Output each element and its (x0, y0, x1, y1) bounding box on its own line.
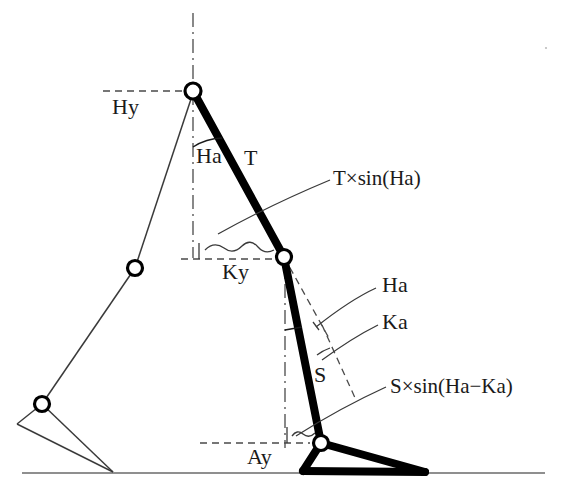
hip-angle-leader-line (316, 288, 376, 327)
hip-angle-reference-label: Ha (382, 274, 408, 296)
rear-shank-segment (42, 268, 135, 404)
foot-sole-segment (303, 471, 425, 472)
knee-angle-label: Ka (382, 311, 408, 333)
shank-label: S (314, 364, 326, 386)
knee-angle-leader-line (322, 325, 378, 360)
rear-foot-sole-segment (17, 424, 113, 472)
diagram-canvas (0, 0, 563, 488)
thigh-segment (193, 91, 284, 257)
thigh-projection-leader-line (218, 180, 330, 234)
rear-foot-toe-segment (42, 404, 113, 472)
shank-extension-dashed-line (322, 325, 356, 400)
ankle-joint-icon (314, 436, 329, 451)
thigh-projection-label: T×sin(Ha) (333, 168, 421, 189)
hip-angle-label: Ha (196, 145, 222, 167)
rear-ankle-joint-icon (35, 397, 50, 412)
shank-segment (284, 257, 321, 443)
knee-angle-arc (317, 348, 330, 355)
rear-thigh-segment (135, 93, 193, 268)
hip-joint-icon (185, 83, 201, 99)
kinematics-diagram: Hy Ha T Ky Ha Ka S Ay T×sin(Ha) S×sin(Ha… (0, 0, 563, 488)
knee-height-squiggle (205, 242, 274, 252)
knee-height-label: Ky (222, 261, 249, 283)
rear-knee-joint-icon (128, 261, 143, 276)
shank-projection-label: S×sin(Ha−Ka) (390, 376, 513, 397)
ankle-height-squiggle (292, 432, 315, 436)
hip-height-label: Hy (112, 96, 139, 118)
knee-joint-icon (277, 250, 292, 265)
ankle-height-label: Ay (247, 446, 272, 468)
scan-speck (545, 47, 547, 49)
thigh-label: T (244, 147, 257, 169)
